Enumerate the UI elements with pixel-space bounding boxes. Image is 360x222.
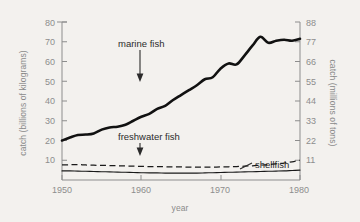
freshwater-fish-arrow: [137, 143, 144, 156]
freshwater-fish-curve: [62, 160, 300, 167]
plot-frame: [57, 22, 300, 180]
x-axis-ticks: [62, 175, 300, 180]
chart-plot-svg: [0, 0, 360, 222]
chart-container: catch (billions of kilograms) catch (mil…: [0, 0, 360, 222]
y-axis-ticks-right: [295, 22, 300, 160]
shellfish-leader-line: [240, 163, 252, 169]
shellfish-curve: [62, 170, 300, 173]
marine-fish-curve: [62, 37, 300, 141]
marine-fish-arrow: [137, 50, 144, 82]
